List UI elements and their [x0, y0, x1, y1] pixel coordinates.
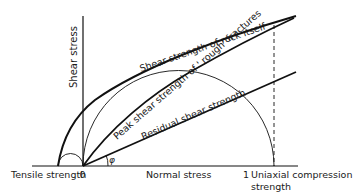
shear-strength-diagram: φ Shear stress Shear strength of rock it…	[0, 0, 356, 196]
friction-angle-arc	[106, 155, 108, 166]
y-axis-label: Shear stress	[68, 26, 79, 88]
tensile-mohr-circle	[58, 154, 83, 167]
peak-fracture-envelope	[83, 18, 294, 166]
ucs-tick-label: 1	[243, 169, 249, 180]
ucs-label-line1: Uniaxial compression	[251, 169, 352, 180]
origin-label: 0	[80, 169, 86, 180]
tensile-strength-label: Tensile strength	[10, 169, 86, 180]
intact-rock-envelope	[58, 16, 296, 166]
friction-angle-symbol: φ	[109, 155, 115, 165]
ucs-label-line2: strength	[251, 181, 291, 192]
x-axis-label: Normal stress	[146, 169, 212, 180]
